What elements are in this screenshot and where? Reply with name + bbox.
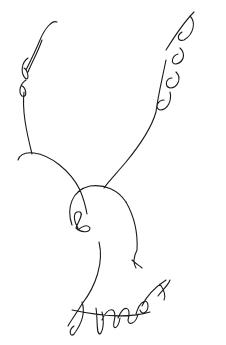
right-wing-stroke [104, 12, 194, 188]
left-wing-stroke [20, 22, 57, 154]
bird-sketch [0, 0, 226, 345]
tail-feathers-stroke [70, 280, 170, 335]
left-wing-tip-stroke [18, 153, 80, 190]
drawing-canvas [0, 0, 226, 345]
head-stroke [70, 186, 126, 232]
